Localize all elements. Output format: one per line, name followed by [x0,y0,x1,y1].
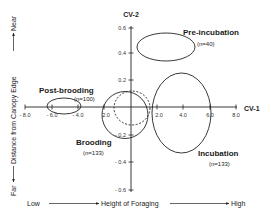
x-descriptor: Low Height of Foraging High [27,200,246,208]
y-mid-label: Distance from Canopy Edge [10,76,18,164]
pre-incubation-ellipse [137,33,195,61]
incubation-label: Incubation [198,149,239,158]
y-tick-02: 0.2 [118,77,126,83]
brooding-dashed-ellipse [114,91,150,125]
x-tick-2: 2.0 [155,112,163,118]
x-axis-title: CV-1 [244,105,260,112]
x-tick-4: 4.0 [179,112,187,118]
brooding-label: Brooding [76,138,112,147]
pre-incubation-label: Pre-incubation [183,28,239,37]
y-tick-m04: - 0.4 [115,159,126,165]
x-high-label: High [231,200,246,208]
x-low-label: Low [27,200,41,207]
incubation-n: (n=133) [209,161,230,167]
x-tick-m8: - 8.0 [19,112,30,118]
x-tick-8: 8.0 [232,112,240,118]
x-tick-m2: 2.0 [102,112,110,118]
pre-incubation-n: (n=40) [197,41,215,47]
x-tick-6: 6.0 [206,112,214,118]
discriminant-function-chart: - 8.0 - 6.0 - 4.0 2.0 2.0 4.0 6.0 8.0 CV… [0,0,271,216]
y-near-label: Near [10,15,17,31]
x-mid-label: Height of Foraging [101,200,159,208]
x-axis: - 8.0 - 6.0 - 4.0 2.0 2.0 4.0 6.0 8.0 CV… [19,105,259,119]
y-tick-04: 0.4 [118,50,126,56]
brooding-n: (n=133) [83,150,104,156]
y-descriptor: Far Distance from Canopy Edge Near [10,15,18,196]
post-brooding-label: Post-brooding [39,86,94,95]
y-axis-title: CV-2 [123,11,139,18]
y-tick-06: 0.6 [118,25,126,31]
y-far-label: Far [10,185,17,196]
y-tick-m06: - 0.6 [115,187,126,193]
post-brooding-n: (n=100) [74,96,95,102]
y-axis: 0.6 0.4 0.2 - 0.2 - 0.4 - 0.6 CV-2 [115,11,139,193]
